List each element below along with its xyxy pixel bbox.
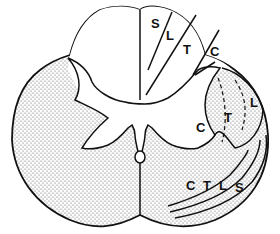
dorsal-label-s: S xyxy=(151,16,160,31)
central-canal xyxy=(135,151,145,163)
lateral-lower-label-l: L xyxy=(219,178,227,193)
spinal-cord-diagram: S L T C C T L C T L S xyxy=(0,0,280,234)
lateral-lower-label-c: C xyxy=(186,178,196,193)
lateral-lower-label-t: T xyxy=(203,178,211,193)
lateral-upper-label-t: T xyxy=(224,110,232,125)
dorsal-label-t: T xyxy=(183,42,191,57)
lateral-lower-label-s: S xyxy=(235,180,244,195)
dorsal-label-l: L xyxy=(166,28,174,43)
lateral-upper-label-l: L xyxy=(250,95,258,110)
dorsal-label-c: C xyxy=(210,44,220,59)
lateral-upper-label-c: C xyxy=(196,120,206,135)
